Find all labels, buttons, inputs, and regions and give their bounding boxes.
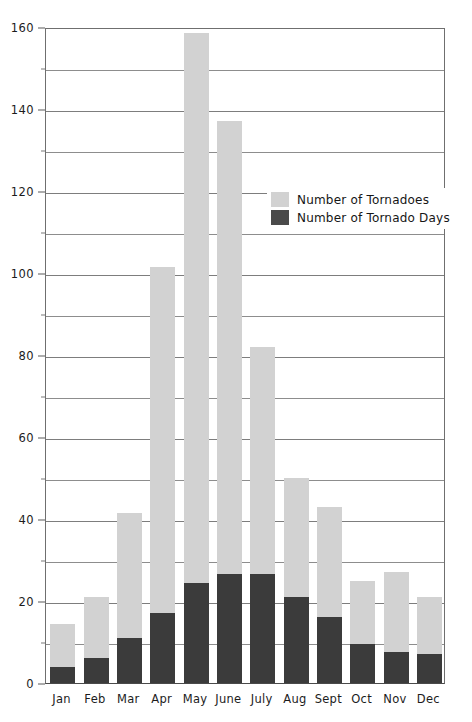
bar-tornado-days xyxy=(350,644,375,683)
tornado-bar-chart: 020406080100120140160 JanFebMarAprMayJun… xyxy=(0,0,472,722)
legend-swatch-tornadoes-icon xyxy=(271,192,289,207)
bar-group xyxy=(317,27,342,683)
x-tick-label: June xyxy=(215,692,241,706)
x-tick-label: Aug xyxy=(283,692,306,706)
y-tick-mark xyxy=(38,192,45,193)
bar-group xyxy=(50,27,75,683)
bar-tornado-days xyxy=(384,652,409,683)
y-tick-label: 160 xyxy=(11,21,34,35)
y-tick-mark xyxy=(38,28,45,29)
y-tick-mark xyxy=(38,274,45,275)
bar-group xyxy=(217,27,242,683)
bar-tornado-days xyxy=(417,654,442,683)
bar-group xyxy=(384,27,409,683)
x-tick-label: July xyxy=(251,692,273,706)
bar-group xyxy=(284,27,309,683)
y-tick-label: 0 xyxy=(26,677,34,691)
x-tick-label: Feb xyxy=(84,692,105,706)
legend-item-tornadoes: Number of Tornadoes xyxy=(271,192,450,207)
legend-label-tornadoes: Number of Tornadoes xyxy=(297,193,429,207)
bar-group xyxy=(250,27,275,683)
x-tick-label: Jan xyxy=(52,692,71,706)
plot-area xyxy=(45,28,445,684)
bar-tornado-days xyxy=(50,667,75,683)
y-axis: 020406080100120140160 xyxy=(0,0,45,722)
legend-label-tornado-days: Number of Tornado Days xyxy=(297,211,450,225)
y-tick-mark xyxy=(38,110,45,111)
bar-tornado-days xyxy=(184,583,209,683)
x-tick-label: Nov xyxy=(383,692,406,706)
bar-group xyxy=(350,27,375,683)
y-tick-label: 40 xyxy=(19,513,34,527)
bar-tornado-days xyxy=(250,574,275,683)
x-tick-label: Apr xyxy=(151,692,172,706)
bars-layer xyxy=(46,29,444,683)
bar-group xyxy=(117,27,142,683)
y-tick-label: 80 xyxy=(19,349,34,363)
bar-tornado-days xyxy=(217,574,242,683)
y-tick-label: 120 xyxy=(11,185,34,199)
bar-tornado-days xyxy=(284,597,309,683)
bar-group xyxy=(150,27,175,683)
x-tick-label: Oct xyxy=(351,692,372,706)
bar-group xyxy=(417,27,442,683)
bar-group xyxy=(184,27,209,683)
x-tick-label: Mar xyxy=(117,692,140,706)
chart-legend: Number of Tornadoes Number of Tornado Da… xyxy=(267,188,456,229)
y-tick-mark xyxy=(38,438,45,439)
x-tick-label: May xyxy=(183,692,208,706)
x-tick-label: Dec xyxy=(417,692,440,706)
x-axis: JanFebMarAprMayJuneJulyAugSeptOctNovDec xyxy=(45,686,445,716)
y-tick-mark xyxy=(38,356,45,357)
x-tick-label: Sept xyxy=(315,692,342,706)
legend-item-tornado-days: Number of Tornado Days xyxy=(271,210,450,225)
y-tick-mark xyxy=(38,520,45,521)
legend-swatch-tornado-days-icon xyxy=(271,210,289,225)
bar-tornado-days xyxy=(84,658,109,683)
y-tick-mark xyxy=(38,684,45,685)
y-tick-label: 20 xyxy=(19,595,34,609)
y-tick-label: 140 xyxy=(11,103,34,117)
bar-tornado-days xyxy=(150,613,175,683)
y-tick-label: 60 xyxy=(19,431,34,445)
bar-group xyxy=(84,27,109,683)
y-tick-label: 100 xyxy=(11,267,34,281)
y-tick-mark xyxy=(38,602,45,603)
bar-tornado-days xyxy=(317,617,342,683)
bar-tornado-days xyxy=(117,638,142,683)
